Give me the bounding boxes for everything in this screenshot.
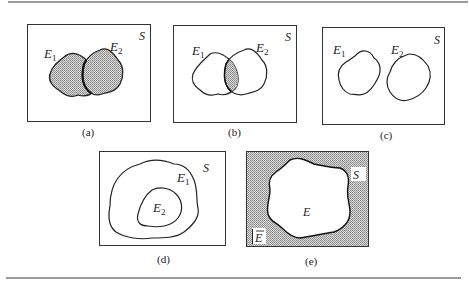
label-s: S	[285, 30, 291, 44]
panel-d: E1 E2 S (d)	[100, 152, 226, 267]
label-s: S	[203, 161, 209, 175]
caption-a: (a)	[82, 126, 95, 139]
venn-figure: E1 E2 S (a) E1 E2 S (b) E1 E2 S (c) E1 E…	[0, 0, 469, 291]
panel-e: S E E (e)	[247, 152, 369, 269]
label-e: E	[302, 205, 311, 219]
label-e-complement: E	[254, 231, 263, 245]
panel-a: E1 E2 S (a)	[28, 25, 151, 140]
caption-d: (d)	[157, 253, 170, 266]
label-s: S	[434, 33, 440, 47]
caption-c: (c)	[380, 129, 393, 142]
label-s: S	[353, 168, 359, 182]
caption-b: (b)	[228, 126, 241, 139]
panel-b: E1 E2 S (b)	[174, 26, 297, 140]
caption-e: (e)	[305, 255, 318, 268]
label-s: S	[139, 29, 145, 43]
panel-c: E1 E2 S (c)	[323, 28, 445, 143]
